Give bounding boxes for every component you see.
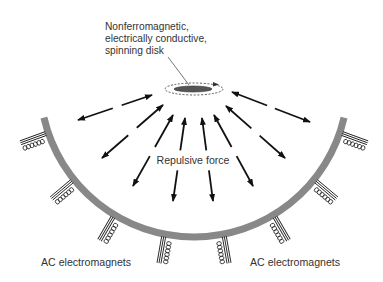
ac-electromagnet [216,236,231,264]
arrow-outer-segment [237,156,253,186]
arrow-inner-segment [180,118,185,150]
arrow-outer-segment [260,136,285,158]
force-arrow [78,95,152,120]
diagram-canvas: Nonferromagnetic, electrically conductiv… [0,0,383,282]
disk-label-line-1: Nonferromagnetic, [105,21,189,32]
arrow-outer-segment [78,108,113,120]
electromagnet-array [20,132,368,265]
arrow-inner-segment [214,115,232,147]
arrow-inner-segment [202,118,206,150]
arrow-outer-segment [275,109,310,123]
ac-electromagnet [339,132,368,151]
arrow-inner-segment [226,106,251,128]
arrow-outer-segment [102,135,128,158]
arrow-inner-segment [122,95,152,105]
repulsive-force-label: Repulsive force [156,154,229,166]
ac-electromagnet [20,132,49,151]
electromagnets-label-left: AC electromagnets [41,256,131,268]
support-arc [44,118,344,237]
disk-label-leader-line [168,57,189,85]
electromagnets-label-right: AC electromagnets [250,256,340,268]
arrow-inner-segment [232,92,267,106]
magnet-core-line [20,134,45,143]
spinning-disk [174,86,212,92]
magnet-core-line [342,134,367,143]
force-arrow [102,105,163,158]
disk-label-line-3: spinning disk [105,45,165,56]
arrow-outer-segment [209,170,213,201]
arrow-outer-segment [133,156,150,186]
repulsive-force-arrows [78,92,310,201]
ac-electromagnet [157,236,172,264]
force-arrow [232,92,310,122]
force-arrow [226,106,285,158]
disk-label-line-2: electrically conductive, [105,33,207,44]
arrow-outer-segment [173,170,177,201]
electrodynamic-levitation-diagram: Nonferromagnetic, electrically conductiv… [0,0,383,282]
arrow-inner-segment [137,105,163,128]
arrow-inner-segment [155,115,173,147]
